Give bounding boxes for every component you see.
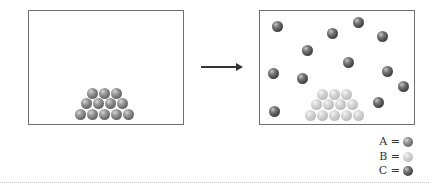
sphere-a [123,109,134,120]
sphere-c [268,68,279,79]
sphere-c [297,73,308,84]
sphere-c [302,45,313,56]
sphere-a [105,98,116,109]
legend-label-b: B = [379,150,400,163]
right-container [259,10,415,125]
sphere-a [117,98,128,109]
sphere-c [272,21,283,32]
legend-label-a: A = [379,135,400,148]
sphere-a [81,98,92,109]
sphere-b [305,110,316,121]
arrow-head-icon [236,63,243,71]
sphere-a [111,109,122,120]
reaction-arrow [201,66,237,68]
legend-label-c: C = [379,164,400,177]
sphere-c-icon [403,166,413,176]
sphere-b [335,99,346,110]
sphere-b [311,99,322,110]
sphere-c [373,97,384,108]
sphere-c [353,17,364,28]
sphere-c [327,28,338,39]
legend-item-b: B = [379,150,413,163]
left-container [28,10,184,125]
sphere-b [317,110,328,121]
sphere-c [343,57,354,68]
sphere-a [87,109,98,120]
legend-item-c: C = [379,164,413,177]
sphere-b [347,99,358,110]
sphere-a-icon [403,137,413,147]
sphere-c [398,81,409,92]
sphere-a [99,109,110,120]
legend-item-a: A = [379,135,413,148]
dotted-divider [0,182,429,183]
sphere-b [329,110,340,121]
sphere-b [323,99,334,110]
sphere-b-icon [403,152,413,162]
sphere-c [382,66,393,77]
sphere-b [353,110,364,121]
sphere-c [269,106,280,117]
sphere-a [75,109,86,120]
sphere-b [341,110,352,121]
sphere-c [377,31,388,42]
sphere-a [93,98,104,109]
